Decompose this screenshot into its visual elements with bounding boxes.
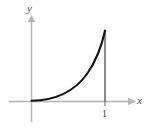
curve-path bbox=[32, 31, 106, 101]
plot-svg bbox=[0, 0, 150, 134]
x-tick-label-1: 1 bbox=[102, 109, 107, 119]
y-axis-label: y bbox=[27, 3, 32, 14]
x-axis-arrowhead bbox=[128, 98, 136, 105]
x-axis-label: x bbox=[137, 95, 142, 106]
y-axis-arrowhead bbox=[28, 15, 35, 22]
graph-figure: y x 1 bbox=[0, 0, 150, 134]
